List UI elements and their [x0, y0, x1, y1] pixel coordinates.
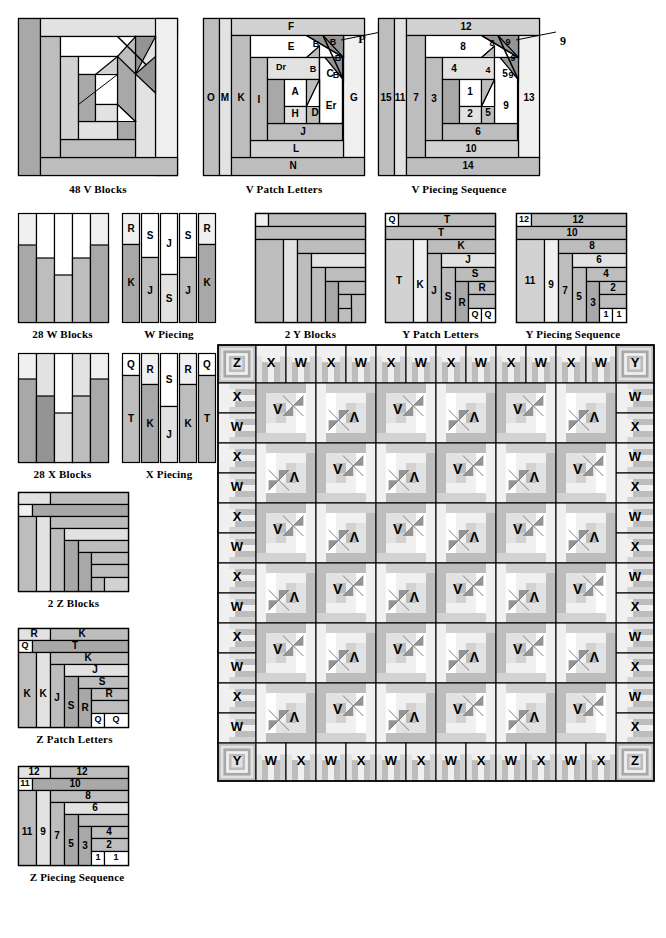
patch-label-B1: B [313, 39, 320, 49]
grid-cell-label: V [333, 461, 343, 477]
y-label-Q2: Q [484, 309, 491, 319]
grid-cell-label: V [289, 469, 299, 485]
grid-cell-label: X [631, 719, 640, 734]
seq-label-15: 15 [380, 92, 392, 103]
figure-y-patch-letters: Q T T T K K J J S S R R Q Q [385, 213, 496, 323]
y-label-J2: J [465, 254, 471, 265]
figure-v-blocks [18, 18, 178, 176]
grid-cell-label: X [297, 753, 306, 768]
y-blocks-diagram [255, 213, 366, 323]
patch-label-H: H [291, 108, 298, 119]
quilt-v-block: V [316, 563, 376, 623]
x-strip-5-top: Q [203, 359, 211, 370]
zseq-label-2: 2 [106, 839, 112, 850]
caption-y-patch-letters: Y Patch Letters [378, 328, 503, 340]
grid-cell-label: X [631, 539, 640, 554]
caption-y-piecing-sequence: Y Piecing Sequence [508, 328, 638, 340]
quilt-v-block: V [496, 383, 556, 443]
patch-label-D: D [311, 107, 318, 118]
grid-cell-label: W [385, 753, 398, 768]
seq-label-4b: 4 [485, 65, 490, 75]
grid-cell-label: W [295, 355, 308, 370]
grid-cell-label: V [589, 649, 599, 665]
quilt-v-block: V [256, 563, 316, 623]
patch-label-B4: B [333, 70, 340, 80]
y-label-S1: S [445, 291, 452, 302]
quilt-v-block: V [376, 383, 436, 443]
grid-cell-label: W [231, 719, 244, 734]
w-strip-5-top: R [203, 223, 211, 234]
patch-label-M: M [221, 92, 229, 103]
grid-cell-label: W [355, 355, 368, 370]
figure-w-piecing: R K S J J S S J R K [122, 213, 216, 323]
z-label-K1: K [78, 628, 86, 639]
caption-x-piecing: X Piecing [122, 468, 216, 480]
grid-cell-label: X [233, 509, 242, 524]
figure-x-piecing: Q T R K S J R K Q T [122, 353, 216, 463]
figure-z-blocks [18, 492, 129, 592]
seq-label-6: 6 [475, 126, 481, 137]
quilt-v-block: V [436, 563, 496, 623]
zseq-label-10: 10 [69, 778, 81, 789]
grid-cell-label: V [573, 581, 583, 597]
grid-cell-label: V [589, 409, 599, 425]
z-label-Q2: Q [94, 714, 101, 724]
quilt-v-block: V [376, 443, 436, 503]
seq-label-7: 7 [413, 92, 419, 103]
y-label-S2: S [472, 268, 479, 279]
seq-label-11: 11 [395, 92, 406, 103]
z-label-Q1: Q [21, 640, 28, 650]
y-label-R1: R [458, 297, 466, 308]
quilt-v-block: V [496, 623, 556, 683]
seq-label-9b: 9 [510, 53, 515, 63]
grid-cell-label: W [629, 509, 642, 524]
grid-cell-label: Y [233, 753, 242, 768]
grid-cell-label: V [513, 401, 523, 417]
z-label-K4: K [39, 688, 47, 699]
x-strip-4-top: R [184, 364, 192, 375]
grid-cell-label: V [513, 521, 523, 537]
x-strip-1-top: Q [127, 359, 135, 370]
z-label-K2: K [84, 652, 92, 663]
quilt-v-block: V [256, 383, 316, 443]
patch-label-N: N [289, 160, 296, 171]
callout-9: 9 [553, 34, 573, 49]
grid-cell-label: W [565, 753, 578, 768]
quilt-v-block: V [376, 683, 436, 743]
quilt-v-block: V [556, 443, 616, 503]
grid-cell-label: W [231, 419, 244, 434]
grid-cell-label: X [233, 569, 242, 584]
yseq-label-11: 11 [525, 275, 536, 286]
seq-label-1: 1 [467, 86, 473, 97]
quilt-v-block: V [556, 383, 616, 443]
grid-cell-label: W [629, 689, 642, 704]
seq-label-10: 10 [465, 143, 477, 154]
grid-cell-label: V [289, 589, 299, 605]
figure-w-blocks [18, 213, 115, 323]
y-label-Q1: Q [471, 309, 478, 319]
grid-cell-label: V [409, 589, 419, 605]
grid-cell-label: V [393, 521, 403, 537]
zseq-label-6: 6 [92, 802, 98, 813]
zseq-label-11b: 11 [22, 826, 33, 837]
yseq-label-6: 6 [596, 254, 602, 265]
z-label-S2: S [68, 700, 75, 711]
yseq-label-3: 3 [590, 297, 596, 308]
grid-cell-label: W [629, 629, 642, 644]
seq-label-9c: 9 [508, 70, 513, 80]
yseq-label-2: 2 [610, 282, 616, 293]
grid-cell-label: X [447, 355, 456, 370]
caption-w-blocks: 28 W Blocks [10, 328, 115, 340]
w-blocks-diagram [18, 213, 115, 323]
w-strip-1-bottom: K [127, 277, 135, 288]
z-piecing-sequence-diagram: 12 12 11 10 8 6 11 9 7 5 4 3 2 1 1 [18, 766, 129, 866]
patch-label-E: E [288, 41, 295, 52]
quilt-v-block: V [556, 563, 616, 623]
z-label-R2: R [81, 702, 89, 713]
quilt-v-block: V [376, 503, 436, 563]
grid-cell-label: V [409, 709, 419, 725]
grid-cell-label: X [233, 629, 242, 644]
z-label-R1: R [30, 628, 38, 639]
z-label-S1: S [99, 676, 106, 687]
grid-cell-label: X [537, 753, 546, 768]
